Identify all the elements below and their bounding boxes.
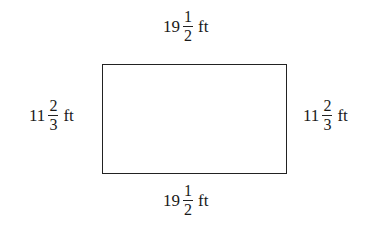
- numerator: 2: [48, 98, 58, 116]
- unit: ft: [198, 18, 208, 35]
- whole-number: 19: [163, 18, 180, 35]
- numerator: 1: [183, 183, 193, 201]
- fraction: 1 2: [183, 183, 193, 218]
- whole-number: 11: [29, 107, 45, 124]
- left-side-length-label: 11 2 3 ft: [29, 98, 74, 133]
- denominator: 2: [183, 201, 193, 218]
- diagram-canvas: 19 1 2 ft 11 2 3 ft 11 2 3 ft 19 1 2 ft: [0, 0, 381, 230]
- denominator: 3: [48, 116, 58, 133]
- unit: ft: [63, 107, 73, 124]
- top-side-length-label: 19 1 2 ft: [163, 9, 208, 44]
- rectangle-shape: [102, 64, 287, 174]
- unit: ft: [337, 107, 347, 124]
- numerator: 2: [322, 98, 332, 116]
- denominator: 3: [322, 116, 332, 133]
- numerator: 1: [183, 9, 193, 27]
- denominator: 2: [183, 27, 193, 44]
- right-side-length-label: 11 2 3 ft: [303, 98, 348, 133]
- bottom-side-length-label: 19 1 2 ft: [163, 183, 208, 218]
- whole-number: 11: [303, 107, 319, 124]
- whole-number: 19: [163, 192, 180, 209]
- unit: ft: [198, 192, 208, 209]
- fraction: 2 3: [322, 98, 332, 133]
- fraction: 2 3: [48, 98, 58, 133]
- fraction: 1 2: [183, 9, 193, 44]
